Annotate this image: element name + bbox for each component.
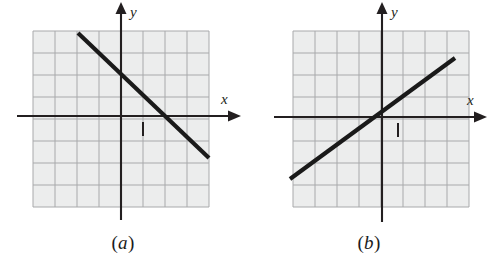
y-axis-label-b: y [389, 4, 398, 20]
y-axis-label-a: y [128, 4, 137, 20]
x-axis-label-a: x [220, 91, 228, 107]
caption-a-close: ) [128, 232, 135, 253]
panel-a: x y (a) [0, 0, 246, 274]
x-axis-label-b: x [466, 92, 474, 108]
caption-b-close: ) [374, 232, 381, 253]
figure-container: x y (a) [0, 0, 492, 274]
caption-a: (a) [0, 232, 246, 254]
y-axis-arrow-a [116, 2, 127, 14]
x-axis-arrow-a [228, 111, 241, 122]
panel-b: x y (b) [246, 0, 492, 274]
caption-b: (b) [246, 232, 492, 254]
graph-b: x y [246, 0, 492, 230]
caption-b-letter: b [364, 232, 374, 253]
graph-a: x y [0, 0, 246, 230]
x-axis-arrow-b [474, 112, 487, 123]
caption-a-letter: a [118, 232, 128, 253]
y-axis-arrow-b [377, 2, 388, 14]
